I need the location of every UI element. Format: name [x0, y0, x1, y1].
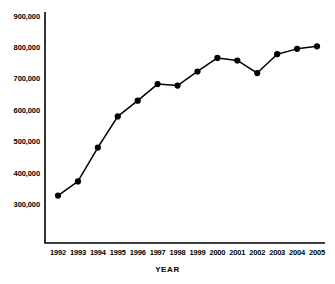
data-point	[75, 178, 81, 184]
data-point	[115, 113, 121, 119]
data-point	[135, 98, 141, 104]
data-point	[254, 70, 260, 76]
data-point	[95, 144, 101, 150]
data-point	[234, 57, 240, 63]
data-point	[174, 83, 180, 89]
data-point	[274, 51, 280, 57]
data-point	[55, 192, 61, 198]
data-point	[214, 55, 220, 61]
axis-lines	[44, 12, 325, 243]
x-axis-tick-labels: 1992199319941995199619971998199920002001…	[0, 248, 335, 260]
data-point	[314, 43, 320, 49]
x-axis-title: YEAR	[0, 265, 335, 274]
plot-area	[0, 0, 335, 284]
x-axis-tick-label: 2005	[302, 248, 332, 257]
data-point	[294, 46, 300, 52]
data-point	[194, 68, 200, 74]
line-chart: 300,000400,000500,000600,000700,000800,0…	[0, 0, 335, 284]
data-point	[155, 81, 161, 87]
data-line	[58, 46, 317, 195]
data-point-markers	[55, 43, 320, 198]
